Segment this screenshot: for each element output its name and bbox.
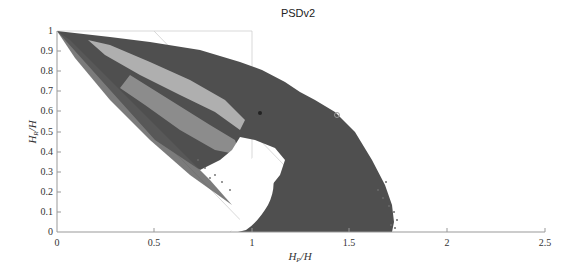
svg-text:0.8: 0.8 — [41, 65, 54, 76]
svg-text:0.7: 0.7 — [41, 85, 54, 96]
scatter-chart: PSDv2 — [0, 0, 572, 271]
svg-text:0.4: 0.4 — [41, 146, 54, 157]
chart-title: PSDv2 — [281, 7, 315, 19]
svg-text:0.6: 0.6 — [41, 105, 54, 116]
svg-text:0.9: 0.9 — [41, 45, 54, 56]
svg-text:0: 0 — [48, 226, 53, 237]
svg-text:0.5: 0.5 — [148, 237, 161, 248]
svg-text:1: 1 — [250, 237, 255, 248]
y-axis-tick-labels: 0 0.1 0.2 0.3 0.4 0.5 0.6 0.7 0.8 0.9 1 — [41, 25, 54, 237]
svg-text:0.2: 0.2 — [41, 186, 54, 197]
x-axis-tick-labels: 0 0.5 1 1.5 2 2.5 — [55, 237, 552, 248]
svg-text:2.5: 2.5 — [539, 237, 552, 248]
svg-text:1.5: 1.5 — [343, 237, 356, 248]
scatter-points — [57, 31, 398, 232]
svg-text:0: 0 — [55, 237, 60, 248]
y-axis-ticks — [57, 51, 61, 212]
y-axis-label: HR/H — [26, 119, 40, 144]
svg-text:1: 1 — [48, 25, 53, 36]
svg-text:0.5: 0.5 — [41, 126, 54, 137]
svg-text:0.1: 0.1 — [41, 206, 54, 217]
svg-text:0.3: 0.3 — [41, 166, 54, 177]
svg-text:2: 2 — [445, 237, 450, 248]
x-axis-ticks — [154, 228, 545, 232]
dot-marker — [258, 111, 262, 115]
x-axis-label: HP/H — [287, 250, 312, 264]
